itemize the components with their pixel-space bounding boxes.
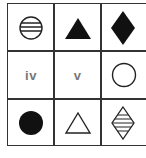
shape-grid: iv v — [7, 3, 146, 146]
solid-circle-icon — [18, 110, 44, 136]
striped-diamond-icon — [111, 106, 135, 140]
cell-r1-c2 — [101, 51, 146, 99]
cell-r0-c1 — [54, 4, 101, 51]
cell-r1-c0: iv — [8, 51, 54, 99]
solid-triangle-icon — [63, 15, 93, 41]
cell-r0-c0 — [8, 4, 54, 51]
striped-circle-icon — [18, 15, 44, 41]
outline-triangle-icon — [63, 110, 93, 136]
outline-circle-icon — [111, 62, 137, 88]
cell-label: v — [74, 68, 82, 83]
cell-r0-c2 — [101, 4, 146, 51]
solid-diamond-icon — [110, 10, 136, 46]
cell-r1-c1: v — [54, 51, 101, 99]
cell-r2-c1 — [54, 99, 101, 146]
cell-label: iv — [25, 68, 37, 83]
cell-r2-c0 — [8, 99, 54, 146]
cell-r2-c2 — [101, 99, 146, 146]
